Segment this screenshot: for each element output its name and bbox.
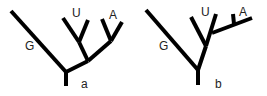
caption-b: b — [215, 78, 222, 90]
label-a-a: A — [109, 9, 117, 21]
label-a-b: A — [239, 6, 247, 18]
label-g-b: G — [159, 40, 168, 52]
phylogenetic-trees — [0, 0, 267, 96]
label-u-b: U — [201, 6, 210, 18]
label-u-a: U — [72, 7, 81, 19]
label-g-a: G — [25, 40, 34, 52]
caption-a: a — [81, 78, 88, 90]
